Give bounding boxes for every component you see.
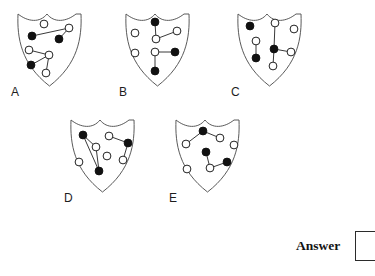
- node-hollow-dot: [269, 62, 277, 70]
- node-filled-dot: [28, 32, 36, 40]
- option-label-c: C: [231, 86, 240, 98]
- node-hollow-dot: [75, 158, 83, 166]
- shield-drawing-b: [122, 8, 200, 92]
- node-filled-dot: [246, 22, 254, 30]
- shield-drawing-e: [172, 114, 250, 198]
- option-label-b: B: [119, 86, 127, 98]
- node-hollow-dot: [290, 25, 298, 33]
- node-filled-dot: [199, 127, 207, 135]
- node-hollow-dot: [271, 19, 279, 27]
- node-hollow-dot: [216, 134, 224, 142]
- node-filled-dot: [95, 167, 103, 175]
- node-hollow-dot: [206, 164, 214, 172]
- node-filled-dot: [55, 35, 63, 43]
- node-filled-dot: [151, 18, 159, 26]
- shield-drawing-c: [234, 8, 312, 92]
- node-hollow-dot: [131, 49, 139, 57]
- node-hollow-dot: [42, 69, 50, 77]
- node-filled-dot: [202, 148, 210, 156]
- node-hollow-dot: [182, 140, 190, 148]
- shield-drawing-d: [67, 114, 145, 198]
- shield-drawing-a: [14, 8, 92, 92]
- node-filled-dot: [79, 131, 87, 139]
- node-filled-dot: [252, 54, 260, 62]
- node-hollow-dot: [151, 48, 159, 56]
- node-hollow-dot: [40, 20, 48, 28]
- node-hollow-dot: [152, 35, 160, 43]
- node-hollow-dot: [103, 152, 111, 160]
- node-filled-dot: [223, 158, 231, 166]
- answer-area: Answer: [296, 239, 340, 253]
- node-hollow-dot: [92, 143, 100, 151]
- node-hollow-dot: [65, 24, 73, 32]
- node-hollow-dot: [252, 37, 260, 45]
- node-hollow-dot: [173, 27, 181, 35]
- node-hollow-dot: [119, 156, 127, 164]
- node-filled-dot: [151, 67, 159, 75]
- node-hollow-dot: [25, 46, 33, 54]
- shield-option-c[interactable]: [234, 8, 312, 108]
- node-hollow-dot: [131, 29, 139, 37]
- option-label-a: A: [11, 86, 19, 98]
- node-hollow-dot: [105, 132, 113, 140]
- node-hollow-dot: [287, 48, 295, 56]
- node-filled-dot: [270, 45, 278, 53]
- shield-option-e[interactable]: [172, 114, 250, 214]
- shield-option-b[interactable]: [122, 8, 200, 108]
- shield-option-d[interactable]: [67, 114, 145, 214]
- node-hollow-dot: [230, 141, 238, 149]
- node-filled-dot: [171, 48, 179, 56]
- answer-input-box[interactable]: [355, 231, 375, 261]
- shield-option-a[interactable]: [14, 8, 92, 108]
- node-hollow-dot: [45, 51, 53, 59]
- node-hollow-dot: [183, 165, 191, 173]
- answer-label: Answer: [296, 239, 340, 253]
- node-filled-dot: [27, 61, 35, 69]
- node-filled-dot: [124, 139, 132, 147]
- option-label-e: E: [169, 192, 177, 204]
- option-label-d: D: [64, 192, 73, 204]
